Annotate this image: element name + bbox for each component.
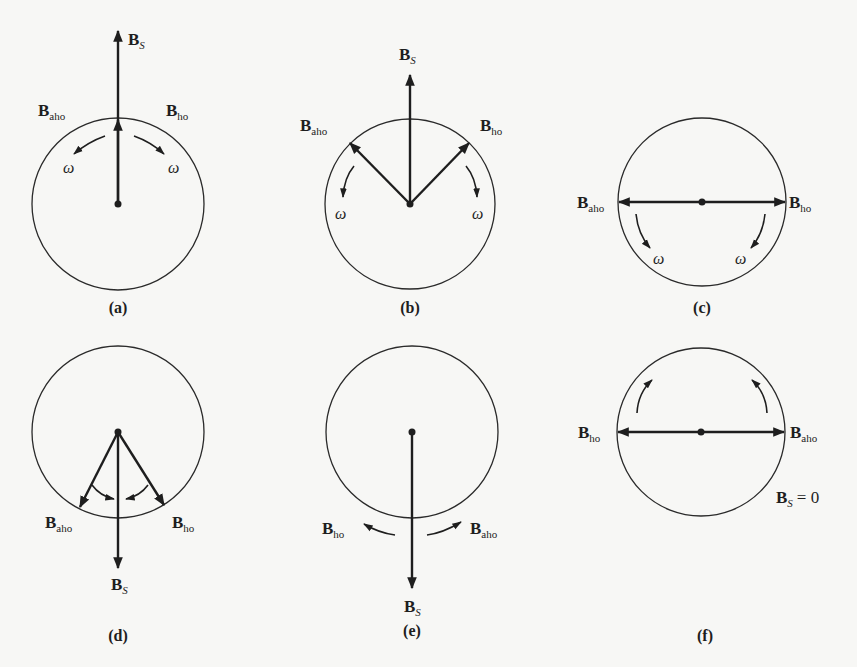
rotation-arrow-right-icon bbox=[427, 522, 461, 535]
bho-label: Bho bbox=[172, 513, 195, 534]
baho-label: Baho bbox=[300, 116, 328, 137]
rotation-arrow-right-icon bbox=[751, 214, 765, 248]
omega-label: ω bbox=[653, 250, 664, 267]
rotation-arrow-left-icon bbox=[637, 380, 652, 413]
omega-label: ω bbox=[735, 250, 746, 267]
baho-label: Baho bbox=[45, 513, 73, 534]
baho-vector-arrow bbox=[350, 143, 410, 204]
baho-label: Baho bbox=[577, 193, 605, 214]
baho-vector-arrow bbox=[80, 432, 118, 507]
rotation-arrow-left-icon bbox=[636, 214, 650, 248]
rotation-arrow-right-icon bbox=[126, 485, 148, 499]
omega-label: ω bbox=[168, 159, 179, 176]
center-dot bbox=[409, 429, 416, 436]
omega-label: ω bbox=[472, 205, 483, 222]
bs-zero-label: BS= 0 bbox=[776, 488, 819, 509]
panel-d: Baho Bho BS (d) bbox=[32, 346, 204, 645]
panel-c: Baho Bho ω ω (c) bbox=[577, 118, 812, 317]
center-dot bbox=[698, 429, 705, 436]
center-dot bbox=[699, 199, 706, 206]
figure-canvas: BS Baho Bho ω ω (a) BS Baho Bho ω ω (b) … bbox=[0, 0, 857, 667]
rotation-arrow-right-icon bbox=[466, 166, 477, 197]
panel-e: Bho Baho BS (e) bbox=[322, 346, 498, 640]
bho-vector-arrow bbox=[118, 432, 164, 505]
panel-caption: (e) bbox=[403, 622, 421, 640]
baho-label: Baho bbox=[38, 101, 66, 122]
bho-label: Bho bbox=[578, 423, 601, 444]
rotation-arrow-left-icon bbox=[343, 166, 354, 197]
center-dot bbox=[407, 201, 414, 208]
panel-caption: (a) bbox=[109, 299, 128, 317]
omega-label: ω bbox=[335, 205, 346, 222]
bs-label: BS bbox=[399, 45, 416, 66]
rotation-arrow-left-icon bbox=[74, 136, 105, 154]
baho-label: Baho bbox=[790, 423, 818, 444]
bs-label: BS bbox=[111, 575, 128, 596]
panel-f: Bho Baho BS= 0 (f) bbox=[578, 348, 819, 645]
rotation-arrow-right-icon bbox=[134, 136, 164, 154]
panel-caption: (b) bbox=[400, 299, 420, 317]
panel-caption: (f) bbox=[697, 627, 713, 645]
center-dot bbox=[115, 201, 122, 208]
bho-label: Bho bbox=[166, 101, 189, 122]
bho-label: Bho bbox=[480, 116, 503, 137]
bho-label: Bho bbox=[322, 519, 345, 540]
bho-label: Bho bbox=[789, 193, 812, 214]
omega-label: ω bbox=[63, 159, 74, 176]
panel-caption: (d) bbox=[108, 627, 128, 645]
panel-a: BS Baho Bho ω ω (a) bbox=[32, 30, 204, 317]
rotation-arrow-left-icon bbox=[364, 524, 395, 535]
center-dot bbox=[115, 429, 122, 436]
panel-caption: (c) bbox=[693, 299, 711, 317]
baho-label: Baho bbox=[470, 519, 498, 540]
rotation-arrow-right-icon bbox=[752, 380, 767, 413]
rotation-arrow-left-icon bbox=[92, 485, 114, 499]
bs-label: BS bbox=[404, 597, 421, 618]
panel-b: BS Baho Bho ω ω (b) bbox=[300, 45, 503, 317]
bs-label: BS bbox=[128, 30, 145, 51]
bho-vector-arrow bbox=[410, 143, 469, 204]
